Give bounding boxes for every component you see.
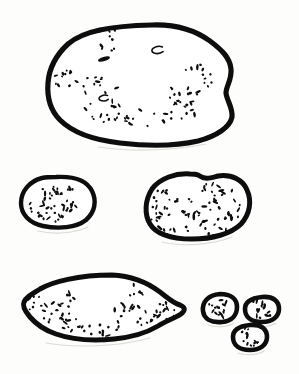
stipple-mark bbox=[256, 313, 258, 319]
tiny-round-left bbox=[203, 294, 237, 322]
artifact-outline-figure bbox=[0, 0, 299, 374]
tiny-round-upper-right-outline bbox=[245, 297, 279, 322]
large-rounded-cobble bbox=[48, 25, 232, 145]
stipple-mark bbox=[55, 309, 58, 311]
tiny-round-lower-right bbox=[233, 325, 267, 350]
stipple-mark bbox=[66, 208, 68, 210]
large-rounded-cobble-outline bbox=[48, 25, 232, 145]
tiny-round-upper-right bbox=[245, 297, 279, 322]
stipple-mark bbox=[56, 187, 58, 190]
stipple-mark bbox=[201, 190, 203, 192]
figure-root bbox=[0, 0, 299, 374]
medium-oval-right bbox=[146, 174, 250, 239]
tiny-round-lower-right-outline bbox=[233, 325, 267, 350]
small-oval-left bbox=[21, 177, 95, 228]
